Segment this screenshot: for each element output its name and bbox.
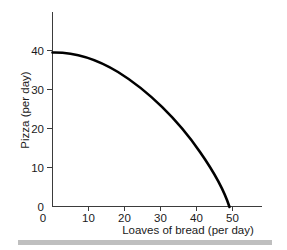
x-tick-label-50: 50 (226, 212, 239, 224)
x-tick-label-10: 10 (82, 212, 95, 224)
y-tick-label-20: 20 (31, 123, 44, 135)
footer-rule (18, 240, 272, 245)
ppf-chart-figure: 40 30 20 10 0 0 10 20 30 40 50 Pizza (pe… (0, 0, 287, 250)
x-tick-label-0: 0 (40, 212, 46, 224)
ppf-curve-path (53, 52, 230, 207)
y-axis-title: Pizza (per day) (19, 71, 31, 149)
y-tick-label-10: 10 (31, 162, 44, 174)
x-tick-label-40: 40 (190, 212, 203, 224)
chart-canvas: 40 30 20 10 0 0 10 20 30 40 50 Pizza (pe… (0, 0, 287, 250)
y-tick-label-40: 40 (31, 45, 44, 57)
x-axis-title: Loaves of bread (per day) (122, 224, 254, 236)
x-tick-label-20: 20 (118, 212, 131, 224)
x-tick-label-30: 30 (154, 212, 167, 224)
y-tick-label-30: 30 (31, 84, 44, 96)
